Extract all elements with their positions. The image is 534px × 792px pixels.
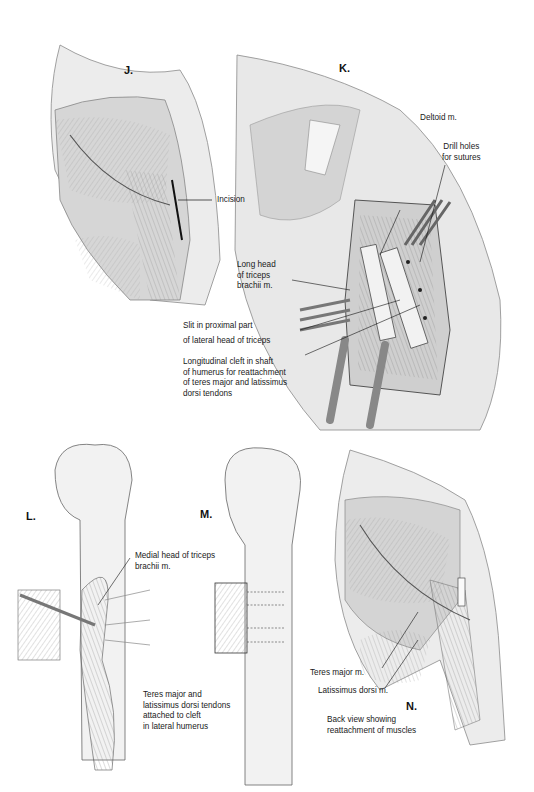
label-deltoid: Deltoid m. — [420, 113, 457, 124]
panel-m-drawing — [215, 448, 301, 785]
panel-letter-m: M. — [200, 508, 212, 520]
panel-letter-l: L. — [26, 510, 36, 522]
label-long-head-triceps: Long head of triceps brachii m. — [237, 260, 276, 292]
panel-letter-j: J. — [124, 64, 133, 76]
label-longitudinal-cleft: Longitudinal cleft in shaft of humerus f… — [183, 357, 287, 399]
panel-l-drawing — [18, 444, 150, 770]
panel-letter-k: K. — [339, 62, 350, 74]
label-teres-latissimus-tendons: Teres major and latissimus dorsi tendons… — [143, 690, 230, 732]
label-teres-major: Teres major m. — [310, 668, 364, 679]
panel-n-drawing — [335, 450, 505, 745]
label-slit-lateral-head: Slit in proximal part of lateral head of… — [183, 318, 270, 348]
label-drill-holes: Drill holes for sutures — [442, 142, 481, 163]
label-back-view-caption: Back view showing reattachment of muscle… — [327, 715, 416, 736]
label-incision: Incision — [217, 195, 245, 206]
panel-j-drawing — [51, 45, 220, 305]
label-latissimus-dorsi: Latissimus dorsi m. — [318, 686, 388, 697]
panel-letter-n: N. — [406, 700, 417, 712]
label-medial-head-triceps: Medial head of triceps brachii m. — [135, 551, 215, 572]
